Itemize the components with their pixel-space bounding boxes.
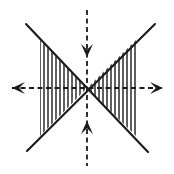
- diagram-svg: [0, 0, 174, 174]
- figure-canvas: [0, 0, 174, 174]
